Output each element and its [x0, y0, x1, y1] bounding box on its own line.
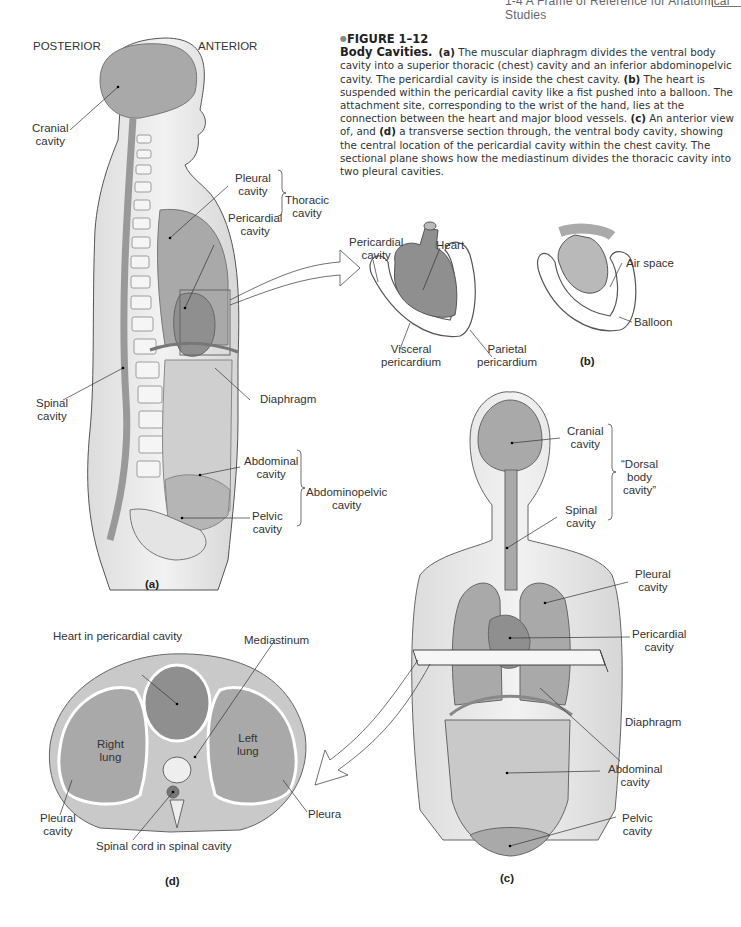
- label-a-thoracic-cavity: Thoraciccavity: [285, 194, 329, 220]
- label-c-dorsal-body-cavity: “Dorsalbodycavity”: [621, 458, 658, 497]
- panel-c-tag: (c): [500, 872, 514, 884]
- label-c-pelvic-cavity: Pelviccavity: [622, 812, 653, 838]
- label-c-spinal-cavity: Spinalcavity: [565, 504, 597, 530]
- label-c-cranial-cavity: Cranialcavity: [567, 425, 603, 451]
- label-b-visceral-pericardium: Visceralpericardium: [381, 343, 441, 369]
- panel-c-figure: [412, 392, 622, 856]
- label-b-balloon: Balloon: [634, 316, 672, 329]
- label-c-abdominal-cavity: Abdominalcavity: [608, 763, 662, 789]
- label-b-pericardial-cavity: Pericardialcavity: [349, 236, 403, 262]
- panel-d-tag: (d): [165, 875, 180, 887]
- label-a-abdominopelvic-cavity: Abdominopelviccavity: [306, 486, 387, 512]
- panel-a-tag: (a): [145, 578, 159, 590]
- label-a-diaphragm: Diaphragm: [260, 393, 316, 406]
- label-b-parietal-pericardium: Parietalpericardium: [477, 343, 537, 369]
- label-a-pelvic-cavity: Pelviccavity: [252, 510, 283, 536]
- label-c-pericardial-cavity: Pericardialcavity: [632, 628, 686, 654]
- label-anterior: ANTERIOR: [198, 40, 257, 53]
- label-a-pericardial-cavity: Pericardialcavity: [228, 212, 282, 238]
- label-b-air-space: Air space: [626, 257, 674, 270]
- label-c-pleural-cavity: Pleuralcavity: [635, 568, 671, 594]
- label-d-left-lung: Leftlung: [237, 732, 259, 758]
- label-d-right-lung: Rightlung: [97, 738, 124, 764]
- panel-d-figure: [49, 654, 306, 832]
- panel-b-figure: [370, 222, 636, 336]
- label-b-heart: Heart: [436, 239, 464, 252]
- label-d-heart-in-pericardial-cavity: Heart in pericardial cavity: [53, 630, 182, 643]
- label-a-abdominal-cavity: Abdominalcavity: [244, 455, 298, 481]
- label-d-spinal-cord: Spinal cord in spinal cavity: [96, 840, 232, 853]
- label-d-pleural-cavity: Pleuralcavity: [40, 812, 76, 838]
- label-d-mediastinum: Mediastinum: [244, 634, 309, 647]
- label-posterior: POSTERIOR: [33, 40, 101, 53]
- label-c-diaphragm: Diaphragm: [625, 716, 681, 729]
- label-a-spinal-cavity: Spinalcavity: [36, 397, 68, 423]
- label-d-pleura: Pleura: [308, 808, 341, 821]
- panel-a-figure: [88, 38, 239, 590]
- label-a-cranial-cavity: Cranialcavity: [32, 122, 68, 148]
- panel-b-tag: (b): [580, 355, 595, 367]
- label-a-pleural-cavity: Pleuralcavity: [235, 172, 271, 198]
